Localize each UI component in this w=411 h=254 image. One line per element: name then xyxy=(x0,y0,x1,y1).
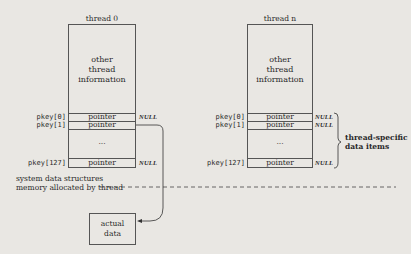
thread-0-cell-ellipsis: ... xyxy=(68,129,136,159)
divider-label-below: memory allocated by thread xyxy=(16,184,123,193)
info-line: information xyxy=(69,75,135,85)
thread-0-cell-pkey127: pointer xyxy=(68,158,136,168)
info-line: thread xyxy=(69,65,135,75)
actual-data-line: actual xyxy=(90,219,135,229)
thread-n-title: thread n xyxy=(247,14,313,23)
actual-data-line: data xyxy=(90,229,135,239)
thread-n-key-label: pkey[127] xyxy=(195,159,245,167)
null-annotation: NULL xyxy=(315,121,333,128)
brace-label-line: data items xyxy=(345,142,408,151)
thread-0-title: thread 0 xyxy=(68,14,136,23)
memory-divider-labels: system data structures memory allocated … xyxy=(16,175,123,192)
null-annotation: NULL xyxy=(315,159,333,166)
info-line: thread xyxy=(248,65,312,75)
brace-label-line: thread-specific xyxy=(345,133,408,142)
info-line: other xyxy=(69,55,135,65)
actual-data-box: actual data xyxy=(89,213,136,245)
thread-n-cell-ellipsis: ... xyxy=(247,129,313,159)
brace-icon xyxy=(334,113,341,168)
null-annotation: NULL xyxy=(315,113,333,120)
thread-n-info-box: other thread information xyxy=(247,24,313,114)
thread-0-key-label: pkey[1] xyxy=(30,121,66,129)
thread-0-info-box: other thread information xyxy=(68,24,136,114)
info-line: other xyxy=(248,55,312,65)
thread-n-key-label: pkey[1] xyxy=(205,121,245,129)
info-line: information xyxy=(248,75,312,85)
thread-0-key-label: pkey[127] xyxy=(20,159,66,167)
null-annotation: NULL xyxy=(139,113,157,120)
null-annotation: NULL xyxy=(139,159,157,166)
brace-label: thread-specific data items xyxy=(345,133,408,151)
thread-0-key-label: pkey[0] xyxy=(30,113,66,121)
arrow-head-icon xyxy=(137,219,142,223)
pointer-arrow xyxy=(136,125,163,221)
thread-n-key-label: pkey[0] xyxy=(205,113,245,121)
thread-n-cell-pkey127: pointer xyxy=(247,158,313,168)
